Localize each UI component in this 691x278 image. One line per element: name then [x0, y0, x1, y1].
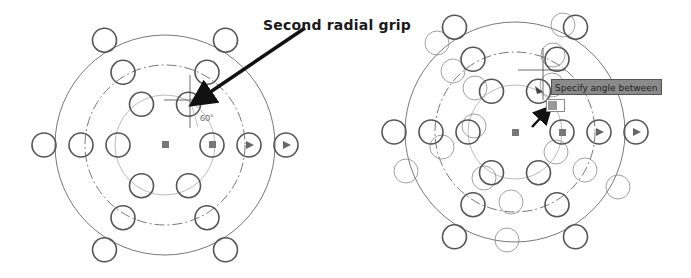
right-panel	[382, 13, 648, 252]
polar-array-figure: Second radial grip 60° Specify angle bet…	[0, 0, 691, 278]
dynamic-input-box[interactable]	[546, 99, 565, 112]
left-panel	[32, 28, 305, 262]
input-icon	[548, 101, 557, 110]
angle-dimension-label: 60°	[200, 113, 214, 123]
row-spacing-grip	[283, 141, 291, 149]
callout-label: Second radial grip	[263, 17, 411, 33]
pointer-arrow	[532, 112, 546, 127]
command-tooltip: Specify angle between items:	[551, 79, 662, 95]
radial-grip-active	[535, 86, 543, 94]
base-grip	[162, 141, 169, 148]
drawing-canvas	[0, 0, 691, 278]
item-grip	[209, 141, 216, 148]
row-count-grip	[246, 141, 254, 149]
